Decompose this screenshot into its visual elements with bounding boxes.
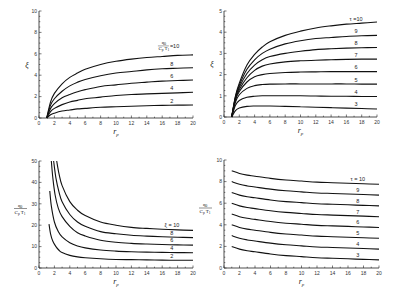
y-tick-label: 6 — [219, 200, 222, 206]
y-tick-label: 2 — [219, 243, 222, 249]
ylabel-numerator: q0 — [203, 202, 208, 208]
curve-label: τ = 10 — [350, 176, 365, 182]
x-tick-label: 8 — [99, 270, 102, 276]
x-tick-label: 12 — [313, 119, 319, 125]
x-tick-label: 12 — [314, 270, 320, 276]
curve-bottom-left-10 — [57, 161, 193, 230]
x-tick-label: 0 — [223, 270, 226, 276]
x-tick-label: 18 — [175, 120, 181, 126]
y-tick-label: 2 — [219, 71, 222, 77]
y-tick-label: 2 — [34, 93, 37, 99]
y-tick-label: 40 — [31, 179, 37, 185]
x-tick-label: 4 — [253, 119, 256, 125]
x-tick-label: 8 — [99, 120, 102, 126]
curve-label: 5 — [355, 77, 358, 83]
ylabel-numerator: q0 — [18, 203, 23, 209]
curve-label: 6 — [170, 237, 173, 243]
subplot-bottom-right: 024681012141618200246810rpq0CpT1τ = 1098… — [199, 157, 382, 287]
y-axis-label: ξ — [210, 60, 214, 69]
y-tick-label: 0 — [34, 265, 37, 271]
curve-label: 3 — [356, 252, 359, 258]
x-tick-label: 12 — [129, 120, 135, 126]
y-tick-label: 0 — [219, 265, 222, 271]
curve-label: 7 — [356, 209, 359, 215]
chart-canvas: 024681012141618200246810rpξq0CpT1=108642… — [0, 0, 403, 297]
x-tick-label: 6 — [84, 270, 87, 276]
x-tick-label: 2 — [53, 270, 56, 276]
x-tick-label: 4 — [68, 270, 71, 276]
y-tick-label: 10 — [31, 243, 37, 249]
x-tick-label: 8 — [284, 119, 287, 125]
ylabel-denominator: CpT1 — [15, 210, 26, 216]
y-tick-label: 8 — [34, 29, 37, 35]
curve-label: 2 — [170, 253, 173, 259]
curve-label: 4 — [170, 85, 173, 91]
x-tick-label: 2 — [53, 120, 56, 126]
subplot-top-right: 02468101214161820012345rpξτ =109876543 — [210, 8, 380, 136]
y-tick-label: 10 — [216, 157, 222, 163]
curve-label: 6 — [170, 73, 173, 79]
curve-label: 5 — [356, 230, 359, 236]
x-tick-label: 6 — [84, 120, 87, 126]
curve-label: 6 — [355, 64, 358, 70]
x-tick-label: 0 — [38, 120, 41, 126]
x-tick-label: 18 — [361, 270, 367, 276]
curve-label: 6 — [356, 219, 359, 225]
x-tick-label: 18 — [359, 119, 365, 125]
x-tick-label: 14 — [328, 119, 334, 125]
y-tick-label: 0 — [34, 115, 37, 121]
y-tick-label: 8 — [219, 178, 222, 184]
curve-label: τ =10 — [350, 16, 363, 22]
curve-label: 8 — [170, 61, 173, 67]
curve-label: 2 — [170, 98, 173, 104]
x-tick-label: 4 — [68, 120, 71, 126]
curve-label: 4 — [356, 241, 359, 247]
curve-label: 8 — [356, 198, 359, 204]
y-tick-label: 0 — [219, 114, 222, 120]
subplot-top-left: 024681012141618200246810rpξq0CpT1=108642 — [25, 8, 196, 137]
x-axis-label: rp — [113, 127, 119, 137]
x-tick-label: 0 — [38, 270, 41, 276]
x-tick-label: 20 — [190, 120, 196, 126]
x-tick-label: 18 — [175, 270, 181, 276]
x-tick-label: 16 — [345, 270, 351, 276]
y-tick-label: 4 — [219, 29, 222, 35]
x-tick-label: 10 — [298, 119, 304, 125]
x-axis-label: rp — [299, 277, 305, 287]
x-tick-label: 2 — [238, 119, 241, 125]
x-tick-label: 14 — [144, 120, 150, 126]
x-axis-label: rp — [298, 126, 304, 136]
x-tick-label: 20 — [376, 270, 382, 276]
curve-label: 9 — [355, 28, 358, 34]
curve-label-value: =10 — [170, 43, 179, 49]
y-tick-label: 1 — [219, 93, 222, 99]
curve-top-left-2 — [47, 105, 193, 118]
x-tick-label: 16 — [159, 270, 165, 276]
x-tick-label: 16 — [159, 120, 165, 126]
x-tick-label: 10 — [113, 270, 119, 276]
x-tick-label: 10 — [113, 120, 119, 126]
subplot-bottom-left: 0246810121416182001020304050rpq0CpT1ξ = … — [14, 158, 196, 287]
x-tick-label: 14 — [144, 270, 150, 276]
x-tick-label: 14 — [330, 270, 336, 276]
y-tick-label: 10 — [31, 8, 37, 14]
curve-label: 8 — [355, 40, 358, 46]
y-tick-label: 4 — [219, 222, 222, 228]
x-tick-label: 6 — [269, 119, 272, 125]
x-tick-label: 20 — [190, 270, 196, 276]
curve-label: 7 — [355, 52, 358, 58]
curve-top-right-3 — [232, 106, 377, 117]
x-tick-label: 20 — [374, 119, 380, 125]
x-tick-label: 12 — [129, 270, 135, 276]
ylabel-denominator: CpT1 — [200, 209, 211, 215]
x-tick-label: 8 — [285, 270, 288, 276]
x-tick-label: 4 — [254, 270, 257, 276]
curve-label: 4 — [355, 89, 358, 95]
curve-label: 9 — [356, 187, 359, 193]
x-tick-label: 10 — [299, 270, 305, 276]
curve-label: ξ = 10 — [164, 222, 179, 229]
y-tick-label: 6 — [34, 51, 37, 57]
y-tick-label: 4 — [34, 72, 37, 78]
x-tick-label: 0 — [223, 119, 226, 125]
y-tick-label: 30 — [31, 201, 37, 207]
